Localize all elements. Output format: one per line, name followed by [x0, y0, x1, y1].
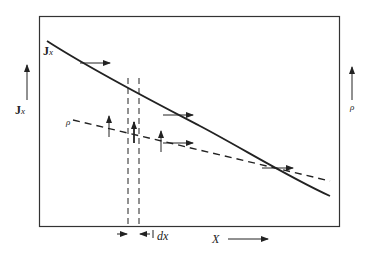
- density-line-label: ρ: [66, 118, 70, 127]
- dx-label: dx: [157, 230, 168, 242]
- flux-curve-label: Jx: [43, 45, 53, 57]
- right-axis-label: ρ: [350, 103, 354, 112]
- flux-curve: [47, 41, 330, 196]
- left-axis-label: Jx: [15, 104, 25, 116]
- bottom-axis-label: X: [212, 233, 219, 245]
- density-line: [73, 120, 330, 181]
- diagram-canvas: [0, 0, 370, 253]
